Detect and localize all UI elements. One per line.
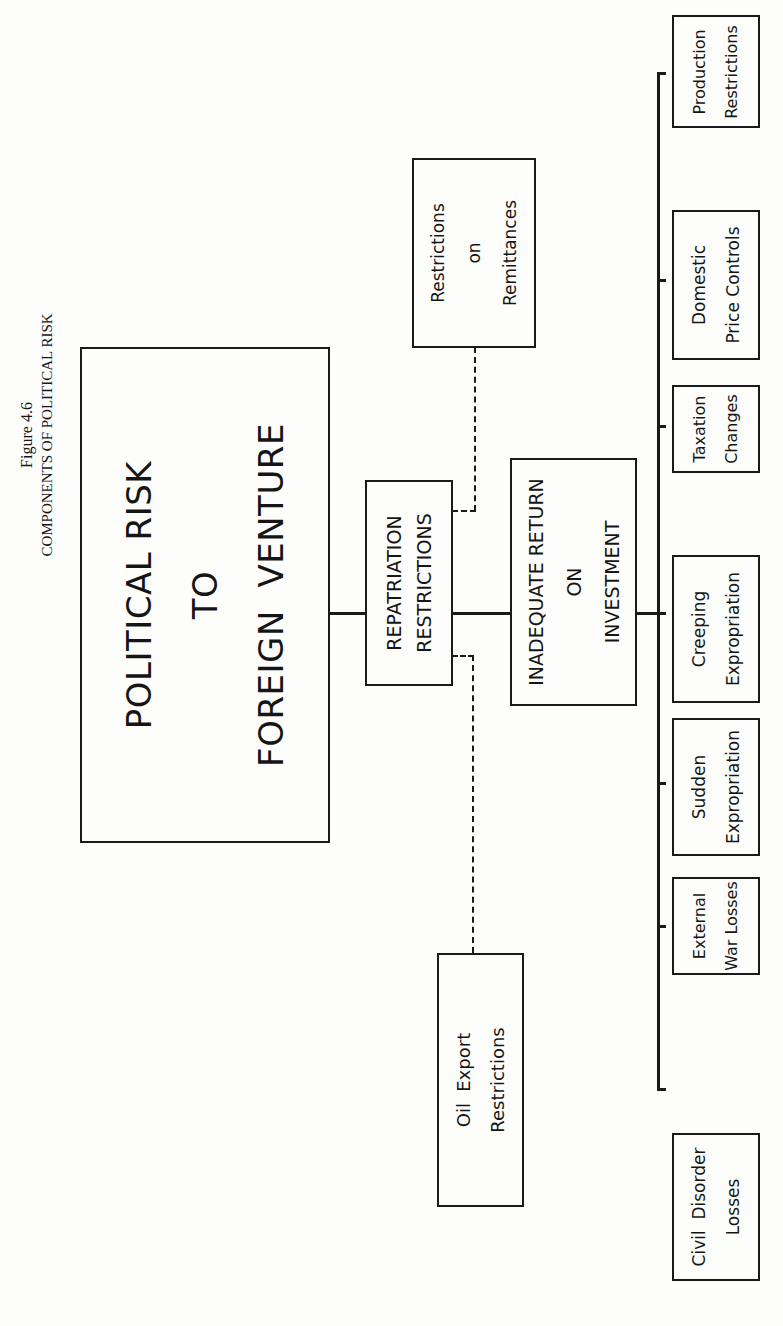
remittances-line-2: on (456, 200, 492, 306)
component-5-line-2: Changes (716, 394, 748, 464)
root-node-political-risk: POLITICAL RISK TO FOREIGN VENTURE (80, 347, 330, 843)
tick-sudden (657, 782, 666, 785)
component-bus (657, 72, 660, 1090)
component-4-line-1: Creeping (682, 572, 716, 686)
tick-production (657, 72, 666, 75)
oil-export-line-1: Oil Export (447, 1027, 481, 1132)
inadequate-line-3: INVESTMENT (593, 478, 631, 686)
figure-title: COMPONENTS OF POLITICAL RISK (37, 313, 57, 556)
remittances-line-1: Restrictions (420, 200, 456, 306)
dashed-connector-remittances (474, 347, 476, 511)
tick-external (657, 925, 666, 928)
connector-root (330, 612, 366, 615)
dashed-connector-oil-export-h (452, 655, 474, 657)
repatriation-line-1: REPATRIATION (379, 513, 409, 652)
tick-domestic (657, 279, 666, 282)
connector-inadequate-bus (636, 612, 658, 615)
component-6-line-1: Domestic (682, 226, 716, 343)
component-7-line-2: Restrictions (716, 25, 748, 119)
dashed-connector-oil-export (472, 655, 474, 953)
component-taxation-changes: Taxation Changes (672, 385, 760, 473)
component-6-line-2: Price Controls (716, 226, 750, 343)
node-oil-export-restrictions: Oil Export Restrictions (437, 953, 524, 1207)
figure-caption: Figure 4.6 COMPONENTS OF POLITICAL RISK (14, 330, 60, 540)
node-repatriation-restrictions: REPATRIATION RESTRICTIONS (365, 480, 453, 686)
tick-civil (657, 1088, 666, 1091)
component-1-line-2: Losses (716, 1148, 750, 1267)
component-creeping-expropriation: Creeping Expropriation (672, 555, 760, 703)
component-sudden-expropriation: Sudden Expropriation (672, 718, 760, 856)
inadequate-line-1: INADEQUATE RETURN (517, 478, 555, 686)
node-restrictions-on-remittances: Restrictions on Remittances (412, 158, 536, 348)
component-7-line-1: Production (684, 25, 716, 119)
component-2-line-2: War Losses (716, 881, 748, 971)
component-5-line-1: Taxation (684, 394, 716, 464)
root-line-1: POLITICAL RISK (106, 423, 172, 767)
tick-creeping (657, 612, 666, 615)
root-line-3: FOREIGN VENTURE (238, 423, 304, 767)
component-domestic-price-controls: Domestic Price Controls (672, 210, 760, 360)
repatriation-line-2: RESTRICTIONS (409, 513, 439, 652)
connector-repatriation-inadequate (452, 612, 511, 615)
component-production-restrictions: Production Restrictions (672, 15, 760, 128)
root-line-2: TO (172, 423, 238, 767)
component-3-line-2: Expropriation (716, 730, 750, 844)
remittances-line-3: Remittances (492, 200, 528, 306)
dashed-connector-remittances-h (452, 510, 476, 512)
oil-export-line-2: Restrictions (481, 1027, 515, 1132)
component-civil-disorder-losses: Civil Disorder Losses (672, 1133, 760, 1281)
component-4-line-2: Expropriation (716, 572, 750, 686)
component-1-line-1: Civil Disorder (682, 1148, 716, 1267)
tick-taxation (657, 425, 666, 428)
component-external-war-losses: External War Losses (672, 877, 760, 975)
component-3-line-1: Sudden (682, 730, 716, 844)
node-inadequate-return: INADEQUATE RETURN ON INVESTMENT (510, 458, 637, 706)
inadequate-line-2: ON (555, 478, 593, 686)
figure-number: Figure 4.6 (17, 313, 37, 556)
component-2-line-1: External (684, 881, 716, 971)
